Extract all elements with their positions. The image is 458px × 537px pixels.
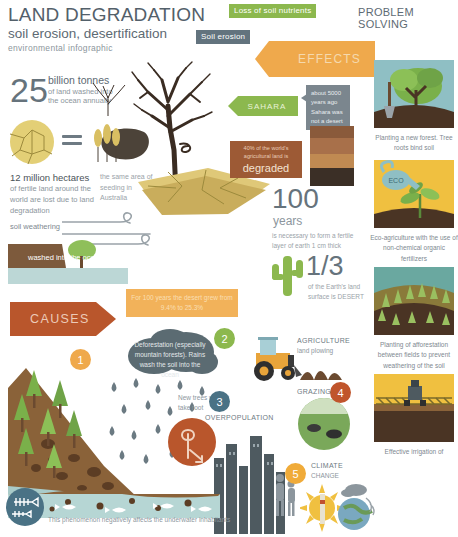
infographic-canvas: LAND DEGRADATION soil erosion, desertifi… [0, 0, 458, 537]
eco-can-label: ECO [388, 177, 404, 184]
cause-number-4: 4 [330, 382, 351, 403]
dead-fish-bones-icon [6, 488, 44, 526]
stat-years-caption: is necessary to form a fertile layer of … [272, 231, 364, 251]
equals-sign [62, 135, 82, 149]
bubble-text: about 5000 years ago Sahara was not a de… [311, 89, 345, 126]
desert-growth-banner: For 100 years the desert grew from 9.4% … [126, 289, 238, 317]
solution-card-4-image [374, 374, 454, 442]
cause-2-label: AGRICULTURE [297, 337, 350, 344]
plowed-soil-mounds-icon [300, 358, 342, 380]
page-subtitle: soil erosion, desertification [8, 26, 167, 41]
solution-caption-3: Planting of afforestation between fields… [370, 340, 458, 371]
stat-third-value: 1/3 [306, 253, 344, 280]
soil-layers-diagram [310, 126, 354, 186]
page-title: LAND DEGRADATION [8, 4, 205, 26]
degraded-small-text: 40% of the world's agricultural land is [234, 144, 298, 161]
stat-years-word: years [273, 214, 302, 228]
cracked-soil-circle-icon [10, 120, 54, 164]
cactus-icon [270, 250, 304, 296]
stat-third-caption: of the Earth's land surface is DESERT [308, 282, 368, 302]
tag-soil-erosion: Soil erosion [196, 30, 250, 44]
washed-into-ocean-label: washed into the ocean [28, 253, 103, 264]
solution-card-2-image: ECO [374, 160, 454, 228]
solution-caption-2: Eco-agriculture with the use of non-chem… [370, 233, 458, 264]
cause-1-text: Deforestation (especially mountain fores… [131, 340, 209, 380]
underwater-caption: This phenomenon negatively affects the u… [48, 516, 230, 523]
desert-banner-text: For 100 years the desert grew from 9.4% … [131, 293, 233, 313]
solution-caption-4: Effective irrigation of [370, 447, 458, 457]
cause-2-sublabel: land plowing [297, 347, 333, 354]
cause-5-sublabel: CHANGE [311, 472, 339, 479]
dead-sapling-icon [168, 418, 216, 466]
climate-change-icon [300, 482, 376, 534]
stat-tonnes-value: 25 [10, 73, 48, 107]
sahara-label: SAHARA [240, 102, 287, 111]
cause-number-2: 2 [214, 328, 235, 349]
tag-loss-of-soil-nutrients: Loss of soil nutrients [229, 4, 316, 18]
soil-weathering-label: soil weathering [10, 222, 60, 231]
cause-5-label: CLIMATE [311, 462, 343, 469]
effects-arrow-banner: EFFECTS [255, 41, 375, 77]
problem-solving-heading: PROBLEM SOLVING [358, 6, 458, 30]
grazing-cows-icon [296, 398, 352, 450]
degraded-big-text: degraded [234, 162, 298, 174]
cause-number-1: 1 [70, 349, 91, 370]
solution-caption-1: Planting a new forest. Tree roots bind s… [370, 133, 458, 154]
cause-3-label: OVERPOPULATION [205, 414, 274, 421]
page-tagline: environmental infographic [8, 43, 113, 53]
sahara-speech-bubble: about 5000 years ago Sahara was not a de… [306, 85, 350, 130]
cause-number-3: 3 [209, 391, 230, 412]
solution-card-3-image [374, 267, 454, 335]
cause-4-label: GRAZING [297, 388, 331, 395]
stat-years-value: 100 [272, 186, 319, 213]
cause-number-5: 5 [285, 463, 306, 484]
solution-card-1-image [374, 60, 454, 128]
causes-arrow-banner: CAUSES [10, 302, 116, 336]
effects-label: EFFECTS [298, 52, 375, 66]
stat-hectares-heading: 12 million hectares [10, 172, 89, 183]
degraded-callout: 40% of the world's agricultural land is … [230, 141, 302, 178]
causes-heading: CAUSES [10, 312, 90, 326]
sahara-arrow-label: SAHARA [228, 96, 298, 116]
